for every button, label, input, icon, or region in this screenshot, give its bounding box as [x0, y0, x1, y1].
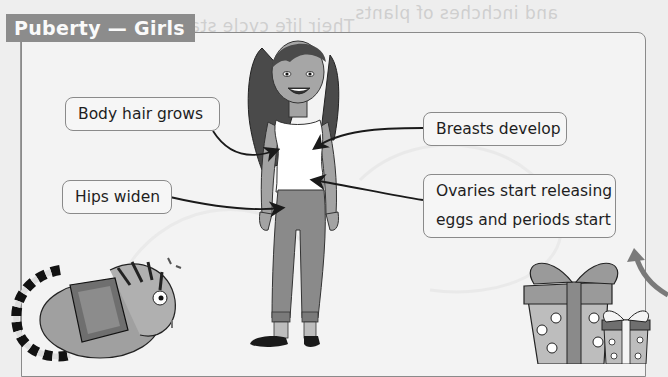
gift-boxes-icon [524, 248, 668, 364]
label-body-hair-grows: Body hair grows [65, 97, 220, 131]
label-hips-widen: Hips widen [62, 180, 172, 214]
girl-figure-icon [248, 41, 339, 347]
label-ovaries-line-1: Ovaries start releasing [436, 177, 603, 206]
label-breasts-develop: Breasts develop [423, 112, 567, 146]
label-ovaries: Ovaries start releasing eggs and periods… [423, 174, 616, 238]
tiger-reading-book-icon [16, 258, 181, 358]
label-ovaries-line-2: eggs and periods start [436, 206, 603, 235]
